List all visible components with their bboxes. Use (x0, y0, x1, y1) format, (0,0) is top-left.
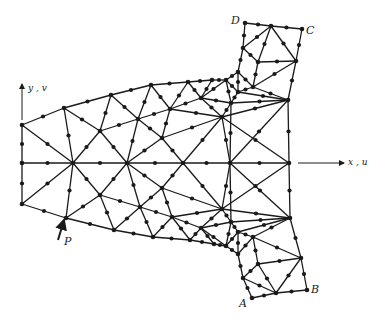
corner-label-a: A (239, 298, 247, 309)
midside-node (232, 95, 236, 99)
corner-node (243, 21, 248, 26)
midside-node (42, 209, 46, 213)
midside-node (228, 131, 232, 135)
corner-node (236, 230, 241, 235)
midside-node (297, 43, 301, 47)
midside-node (98, 161, 102, 165)
midside-node (122, 105, 126, 109)
corner-node (250, 296, 255, 301)
midside-node (281, 41, 285, 45)
midside-node (211, 87, 215, 91)
midside-node (209, 216, 213, 220)
midside-node (262, 293, 266, 297)
midside-node (211, 235, 215, 239)
midside-node (131, 183, 135, 187)
corner-node (236, 90, 241, 95)
corner-node (98, 193, 103, 198)
midside-node (268, 91, 272, 95)
midside-node (258, 218, 262, 222)
corner-node (20, 161, 25, 166)
midside-node (262, 223, 266, 227)
midside-node (183, 101, 187, 105)
midside-node (84, 177, 88, 181)
midside-node (253, 248, 257, 252)
midside-node (125, 216, 129, 220)
midside-node (243, 243, 247, 247)
midside-node (262, 42, 266, 46)
midside-node (243, 232, 247, 236)
midside-node (158, 95, 162, 99)
midside-node (226, 232, 230, 236)
midside-node (45, 142, 49, 146)
midside-node (160, 225, 164, 229)
corner-node (229, 101, 234, 106)
corner-node (20, 202, 25, 207)
midside-node (142, 173, 146, 177)
corner-node (125, 161, 130, 166)
midside-node (230, 248, 234, 252)
midside-node (111, 177, 115, 181)
corner-node (181, 161, 186, 166)
midside-node (169, 236, 173, 240)
midside-node (85, 99, 89, 103)
midside-node (184, 220, 188, 224)
midside-node (179, 226, 183, 230)
corner-label-d: D (231, 15, 240, 26)
midside-node (257, 283, 261, 287)
midside-node (253, 184, 257, 188)
corner-node (170, 215, 175, 220)
midside-node (177, 93, 181, 97)
midside-node (253, 72, 257, 76)
midside-node (192, 88, 196, 92)
midside-node (200, 184, 204, 188)
midside-node (144, 220, 148, 224)
midside-node (142, 148, 146, 152)
midside-node (20, 142, 24, 146)
corner-node (71, 161, 76, 166)
midside-nodes (20, 22, 306, 297)
midside-node (165, 200, 169, 204)
corner-node (300, 27, 305, 32)
midside-node (238, 264, 242, 268)
midside-node (67, 188, 71, 192)
midside-node (20, 181, 24, 185)
midside-node (258, 188, 262, 192)
corner-node (212, 242, 217, 247)
midside-node (230, 74, 234, 78)
midside-node (230, 84, 234, 88)
corner-node (160, 186, 165, 191)
midside-node (41, 114, 45, 118)
midside-node (193, 232, 197, 236)
midside-node (45, 161, 49, 165)
corner-node (286, 98, 291, 103)
corner-node (299, 256, 304, 261)
midside-node (286, 129, 290, 133)
corner-node (199, 96, 204, 101)
midside-node (265, 276, 269, 280)
midside-node (272, 72, 276, 76)
midside-node (170, 173, 174, 177)
midside-node (255, 35, 259, 39)
midside-node (218, 243, 222, 247)
midside-node (45, 181, 49, 185)
midside-node (253, 138, 257, 142)
corner-node (64, 216, 69, 221)
midside-node (88, 222, 92, 226)
corner-node (229, 220, 234, 225)
midside-node (243, 77, 247, 81)
midside-node (256, 22, 260, 26)
midside-node (261, 94, 265, 98)
midside-node (226, 89, 230, 93)
corner-node (287, 161, 292, 166)
midside-node (238, 58, 242, 62)
midside-node (224, 108, 228, 112)
midside-node (105, 210, 109, 214)
midside-node (275, 245, 279, 249)
midside-node (232, 225, 236, 229)
fem-mesh-diagram (0, 0, 372, 320)
midside-node (289, 289, 293, 293)
midside-node (111, 145, 115, 149)
corner-node (160, 136, 165, 141)
midside-node (286, 273, 290, 277)
midside-node (254, 211, 258, 215)
